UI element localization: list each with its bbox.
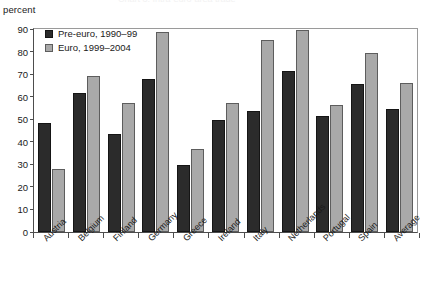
y-axis-tick-label: 60 (2, 91, 34, 102)
legend-item-pre-euro: Pre-euro, 1990–99 (45, 27, 137, 41)
bar-pre-euro (108, 134, 121, 232)
y-axis-tick-label: 50 (2, 114, 34, 125)
y-axis-tick-mark (30, 209, 34, 210)
bar-pre-euro (386, 109, 399, 232)
legend: Pre-euro, 1990–99 Euro, 1999–2004 (45, 27, 137, 55)
y-axis-tick-label: 70 (2, 69, 34, 80)
bar-euro (400, 83, 413, 232)
y-axis-tick-label: 20 (2, 181, 34, 192)
y-axis-tick-mark (30, 96, 34, 97)
bar-euro (261, 40, 274, 232)
plot-area: 9080706050403020100 (33, 28, 418, 233)
bar-group (34, 29, 69, 232)
bar-pre-euro (247, 111, 260, 232)
y-axis-tick-label: 90 (2, 24, 34, 35)
bar-euro (156, 32, 169, 232)
bar-pre-euro (38, 123, 51, 232)
bar-group (243, 29, 278, 232)
legend-swatch-pre-euro (45, 30, 53, 38)
y-axis-tick-mark (30, 74, 34, 75)
bar-groups (34, 29, 417, 232)
y-axis-tick-mark (30, 119, 34, 120)
chart-figure: Chart 3. Intra-euro-area trade percent 9… (0, 0, 434, 289)
x-axis-tick-mark (419, 233, 420, 238)
bar-pre-euro (142, 79, 155, 232)
bar-pre-euro (351, 84, 364, 232)
bar-group (104, 29, 139, 232)
y-axis-unit-label: percent (3, 4, 35, 15)
y-axis-tick-mark (30, 164, 34, 165)
bar-group (313, 29, 348, 232)
y-axis-tick-label: 10 (2, 204, 34, 215)
bar-group (69, 29, 104, 232)
bar-euro (226, 103, 239, 232)
bar-euro (296, 30, 309, 232)
bar-group (382, 29, 417, 232)
legend-label-euro: Euro, 1999–2004 (58, 41, 131, 55)
y-axis-tick-mark (30, 141, 34, 142)
x-axis-labels: AustriaBelgiumFinlandGermanyGreeceIrelan… (33, 236, 419, 289)
y-axis-tick-mark (30, 29, 34, 30)
y-axis-tick-label: 30 (2, 159, 34, 170)
bar-group (278, 29, 313, 232)
bar-group (208, 29, 243, 232)
legend-label-pre-euro: Pre-euro, 1990–99 (58, 27, 137, 41)
legend-item-euro: Euro, 1999–2004 (45, 41, 137, 55)
bar-pre-euro (177, 165, 190, 232)
bar-group (347, 29, 382, 232)
bar-pre-euro (73, 93, 86, 232)
y-axis-tick-mark (30, 186, 34, 187)
legend-swatch-euro (45, 44, 53, 52)
bar-pre-euro (282, 71, 295, 232)
bar-pre-euro (212, 120, 225, 232)
bar-group (173, 29, 208, 232)
y-axis-tick-mark (30, 51, 34, 52)
bar-euro (365, 53, 378, 232)
y-axis-tick-label: 0 (2, 227, 34, 238)
y-axis-tick-label: 80 (2, 46, 34, 57)
bar-euro (330, 105, 343, 232)
bar-euro (87, 76, 100, 232)
y-axis-tick-label: 40 (2, 136, 34, 147)
cropped-title: Chart 3. Intra-euro-area trade (118, 0, 318, 4)
bar-group (138, 29, 173, 232)
bar-euro (122, 103, 135, 232)
